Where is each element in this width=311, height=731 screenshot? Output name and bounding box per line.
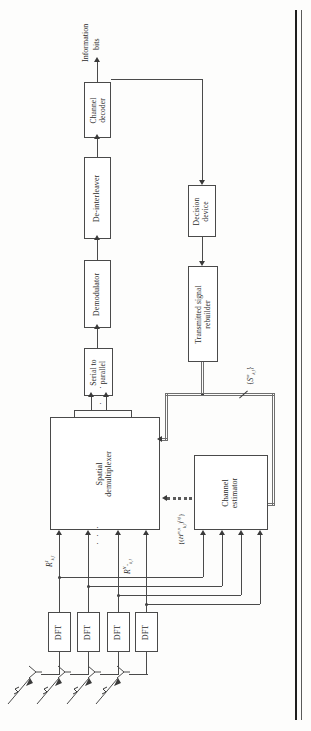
block-label-serial-to-parallel: Serial to parallel (90, 359, 107, 385)
block-dft-4[interactable]: DFT (135, 612, 158, 652)
arrowhead-bus-into-demultiplexer (157, 436, 162, 442)
arrowhead-demod-to-deint (94, 235, 100, 240)
block-label-de-interleaver: De-interleaver (93, 174, 102, 222)
tap-line-1 (59, 577, 203, 578)
line-s2p-to-demod (97, 328, 98, 348)
block-label-dft-3: DFT (114, 624, 123, 639)
line-dft1-to-tap (59, 577, 60, 612)
block-decision-device[interactable]: Decision device (188, 185, 216, 237)
block-label-dft-2: DFT (84, 624, 93, 639)
arrowhead-rx1-into-estimator (200, 530, 206, 535)
line-bracket-end-b (131, 410, 132, 417)
tap-line-4 (146, 604, 260, 605)
arrowhead-output (94, 57, 100, 62)
block-dft-1[interactable]: DFT (48, 612, 71, 652)
line-rx2-into-estimator (222, 534, 223, 586)
tap-line-3 (118, 595, 241, 596)
incoming-wave-3 (65, 672, 95, 706)
block-dft-2[interactable]: DFT (77, 612, 100, 652)
block-label-dft-4: DFT (142, 624, 151, 639)
arrowhead-rx2-into-demux (85, 530, 91, 535)
bus-channel-estimate-dashed (167, 497, 195, 500)
block-label-decision-device: Decision device (194, 197, 211, 225)
figure-canvas: Information bits Channel decoder De-inte… (0, 0, 311, 731)
line-bracket-span (74, 410, 132, 411)
bus-to-demultiplexer-tail (161, 438, 168, 441)
line-rx3-into-estimator (241, 534, 242, 595)
arrowhead-rx2-into-estimator (219, 530, 225, 535)
signal-ellipsis: · · · (92, 525, 102, 546)
block-demodulator[interactable]: Demodulator (84, 260, 111, 328)
line-rx2-into-demux (88, 534, 89, 586)
arrowhead-rx1-into-demux (56, 530, 62, 535)
line-dft2-to-tap (88, 586, 89, 612)
line-ant4-to-dft4 (146, 652, 147, 674)
line-demod-to-deint (97, 239, 98, 260)
incoming-wave-4 (94, 672, 124, 706)
block-label-transmitted-signal-rebuilder: Transmitted signal rebuilder (195, 285, 212, 343)
block-channel-estimator[interactable]: Channel estimator (194, 455, 268, 530)
output-label-line2: bits (93, 38, 102, 50)
arrowhead-s2p-to-demod (94, 324, 100, 329)
line-decoder-feedback-v (202, 79, 203, 180)
incoming-wave-2 (35, 672, 65, 706)
page-rule-outer (295, 10, 297, 720)
bus-to-estimator-h (203, 393, 275, 396)
bus-to-demultiplexer-v (165, 393, 168, 440)
block-label-channel-estimator: Channel estimator (222, 477, 240, 508)
label-rebuilt-symbols: {Smk,l} (245, 366, 256, 385)
arrowhead-channel-estimate (162, 495, 167, 501)
arrowhead-rx3-into-estimator (238, 530, 244, 535)
line-bracket-end-a (74, 410, 75, 417)
bus-to-demultiplexer-h (165, 393, 203, 396)
line-dft3-to-tap (118, 595, 119, 612)
block-dft-3[interactable]: DFT (107, 612, 130, 652)
line-decoder-feedback-h (111, 79, 202, 80)
bus-to-estimator-v (272, 393, 275, 505)
line-rx1-into-demux (59, 534, 60, 577)
line-bracket-left (91, 396, 92, 410)
block-label-channel-decoder: Channel decoder (89, 97, 106, 123)
block-label-demodulator: Demodulator (93, 272, 102, 315)
line-decision-to-rebuilder (202, 237, 203, 261)
tap-line-2 (88, 586, 222, 587)
line-decoder-to-output (97, 62, 98, 82)
output-label-line1: Information (82, 24, 91, 62)
line-bracket-right (106, 396, 107, 410)
bus-rebuilder-stem (201, 362, 204, 395)
line-rx4-into-demux (146, 534, 147, 604)
label-signal-last: RNTxk,l (122, 559, 133, 574)
arrowhead-deint-to-decoder (94, 134, 100, 139)
incoming-wave-1 (6, 672, 36, 706)
bracket-ellipsis: · · · (95, 385, 105, 406)
arrowhead-rx4-into-demux (143, 530, 149, 535)
block-label-spatial-demultiplexer: Spatial demultiplexer (96, 451, 114, 497)
arrowhead-rx4-into-estimator (257, 530, 263, 535)
arrowhead-rx3-into-demux (115, 530, 121, 535)
block-channel-decoder[interactable]: Channel decoder (84, 82, 111, 138)
line-rx1-into-estimator (203, 534, 204, 577)
line-rx4-into-estimator (260, 534, 261, 604)
line-deint-to-decoder (97, 138, 98, 157)
page-rule-inner (301, 10, 302, 720)
block-transmitted-signal-rebuilder[interactable]: Transmitted signal rebuilder (188, 266, 218, 362)
block-de-interleaver[interactable]: De-interleaver (84, 157, 111, 239)
label-channel-estimate: {(Hm,nk,l)(q)} (176, 513, 187, 545)
arrowhead-bracket-left (88, 392, 94, 397)
block-label-dft-1: DFT (55, 624, 64, 639)
block-spatial-demultiplexer[interactable]: Spatial demultiplexer (50, 417, 160, 530)
line-dft4-to-tap (146, 604, 147, 612)
label-signal-first: R1k,l (44, 556, 55, 567)
